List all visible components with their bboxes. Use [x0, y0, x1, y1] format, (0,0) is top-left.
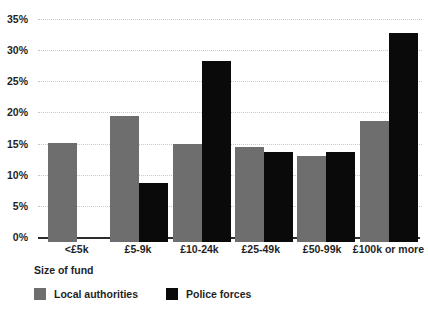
bar-group-4 — [295, 14, 357, 242]
bar-group-1 — [108, 14, 170, 242]
bar-police-forces-5 — [389, 33, 418, 242]
bar-group-2 — [171, 14, 233, 242]
bar-local-authorities-0 — [48, 143, 77, 242]
ytick-label-25: 25% — [0, 75, 28, 87]
bar-local-authorities-3 — [235, 147, 264, 242]
legend-item-local-authorities: Local authorities — [34, 288, 138, 300]
bar-group-3 — [233, 14, 295, 242]
ytick-label-35: 35% — [0, 13, 28, 25]
xtick-label-0: <£5k — [46, 243, 107, 255]
legend-swatch-icon-police-forces — [166, 288, 178, 300]
x-axis-labels: <£5k £5-9k £10-24k £25-49k £50-99k £100k… — [46, 243, 424, 255]
legend-item-police-forces: Police forces — [166, 288, 251, 300]
xtick-label-5: £100k or more — [353, 243, 424, 255]
xtick-label-4: £50-99k — [291, 243, 352, 255]
legend: Local authorities Police forces — [34, 288, 251, 300]
x-axis-title: Size of fund — [34, 264, 94, 276]
bar-group-5 — [358, 14, 420, 242]
ytick-label-30: 30% — [0, 44, 28, 56]
bar-police-forces-1 — [139, 183, 168, 242]
xtick-label-3: £25-49k — [230, 243, 291, 255]
ytick-label-20: 20% — [0, 106, 28, 118]
plot-area: 35% 30% 25% 20% 15% 10% 5% 0% — [38, 14, 422, 242]
ytick-label-0: 0% — [0, 231, 28, 243]
ytick-label-15: 15% — [0, 138, 28, 150]
bar-local-authorities-5 — [360, 121, 389, 242]
ytick-label-10: 10% — [0, 169, 28, 181]
bar-groups — [46, 14, 420, 242]
bar-chart: 35% 30% 25% 20% 15% 10% 5% 0% — [0, 0, 428, 311]
bar-local-authorities-2 — [173, 144, 202, 242]
legend-swatch-icon-local-authorities — [34, 288, 46, 300]
bar-police-forces-4 — [326, 152, 355, 242]
bar-group-0 — [46, 14, 108, 242]
legend-label-police-forces: Police forces — [186, 288, 251, 300]
xtick-label-1: £5-9k — [107, 243, 168, 255]
legend-label-local-authorities: Local authorities — [54, 288, 138, 300]
ytick-label-5: 5% — [0, 200, 28, 212]
bar-local-authorities-1 — [110, 116, 139, 242]
bar-local-authorities-4 — [297, 156, 326, 242]
bar-police-forces-3 — [264, 152, 293, 242]
xtick-label-2: £10-24k — [169, 243, 230, 255]
bar-police-forces-2 — [202, 61, 231, 242]
